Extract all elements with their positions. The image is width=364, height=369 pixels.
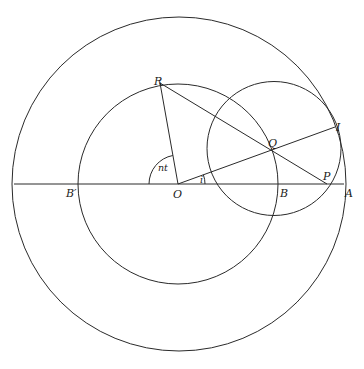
label-Q: Q bbox=[268, 137, 277, 150]
label-I: I bbox=[335, 121, 341, 134]
label-O: O bbox=[173, 188, 182, 201]
label-angle-nt: nt bbox=[158, 162, 168, 173]
diagram-canvas: R Q I P A B B′ O nt i bbox=[0, 0, 364, 369]
label-A: A bbox=[344, 187, 353, 200]
line-RP bbox=[160, 83, 327, 184]
geometry-figure: R Q I P A B B′ O nt i bbox=[0, 0, 364, 369]
label-angle-i: i bbox=[200, 174, 203, 185]
label-B-prime: B′ bbox=[65, 187, 77, 200]
label-B: B bbox=[279, 187, 288, 200]
angle-arc-i bbox=[203, 175, 205, 184]
label-P: P bbox=[322, 170, 331, 183]
label-R: R bbox=[153, 75, 162, 88]
